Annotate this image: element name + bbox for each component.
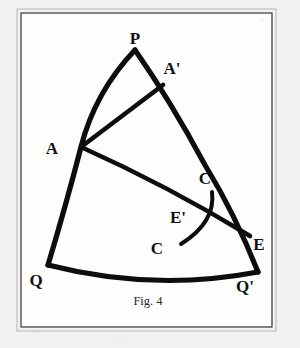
point-label-a: A (46, 139, 59, 158)
point-label-e-prime: E' (170, 208, 186, 227)
point-label-q: Q (29, 271, 42, 290)
point-label-q-prime: Q' (236, 277, 254, 296)
point-label-c-upper: C (199, 169, 211, 188)
point-label-a-prime: A' (164, 59, 181, 78)
point-label-c-lower: C (151, 239, 163, 258)
scan-speck (37, 331, 39, 333)
geometry-figure-canvas: P A' A C E' C E Q Q' Fig. 4 (0, 0, 300, 348)
point-label-e: E (253, 235, 264, 254)
scan-speck (261, 19, 262, 20)
scan-speck (119, 337, 120, 338)
figure-caption: Fig. 4 (133, 294, 163, 308)
figure-plate: P A' A C E' C E Q Q' Fig. 4 (0, 0, 300, 348)
point-label-p: P (130, 29, 140, 48)
